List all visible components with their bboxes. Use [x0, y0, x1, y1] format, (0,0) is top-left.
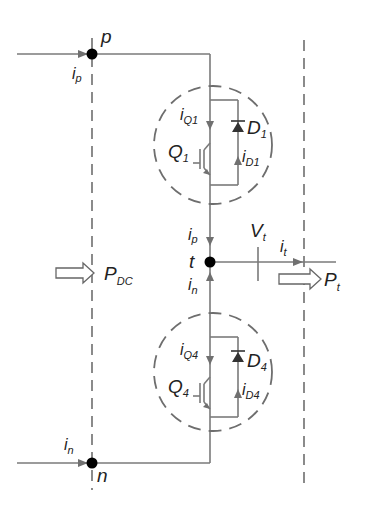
label-id4: iD4 [242, 381, 260, 401]
pt-power-arrow-icon [279, 269, 321, 289]
label-q4: Q4 [168, 376, 189, 399]
label-ip: ip [72, 65, 82, 84]
q4-d4-group-circle [154, 313, 272, 431]
label-d4: D4 [247, 350, 267, 373]
label-node-p: p [100, 26, 112, 47]
d1-diode-icon [232, 122, 244, 132]
label-node-t: t [189, 251, 195, 272]
pdc-power-arrow-icon [56, 263, 94, 283]
label-iq1: iQ1 [180, 106, 198, 126]
label-in-mid: in [188, 276, 198, 296]
node-t [205, 257, 216, 268]
id4-arrow-icon [234, 389, 242, 398]
iq4-arrow-icon [206, 356, 214, 365]
d4-diode-icon [232, 352, 244, 362]
label-id1: iD1 [242, 148, 260, 168]
label-q1: Q1 [168, 141, 189, 164]
node-n [87, 458, 98, 469]
id1-arrow-icon [234, 156, 242, 165]
ip-mid-arrow-icon [206, 237, 214, 246]
q1-igbt-icon [193, 143, 210, 175]
label-in: in [64, 436, 74, 456]
q4-igbt-icon [193, 377, 210, 409]
label-iq4: iQ4 [180, 341, 198, 361]
label-node-n: n [97, 465, 108, 486]
label-d1: D1 [247, 117, 267, 140]
label-vt: Vt [250, 220, 267, 243]
label-pt: Pt [324, 269, 341, 293]
label-ip-mid: ip [188, 226, 198, 245]
node-p [87, 49, 98, 60]
label-pdc: PDC [104, 263, 133, 287]
circuit-diagram: p n t ip in ip in iQ1 iD1 iQ4 iD4 Q1 D1 … [0, 0, 372, 516]
in-mid-arrow-icon [206, 272, 214, 281]
label-it: it [280, 238, 288, 258]
iq1-arrow-icon [206, 121, 214, 130]
it-arrow-icon [293, 258, 303, 266]
